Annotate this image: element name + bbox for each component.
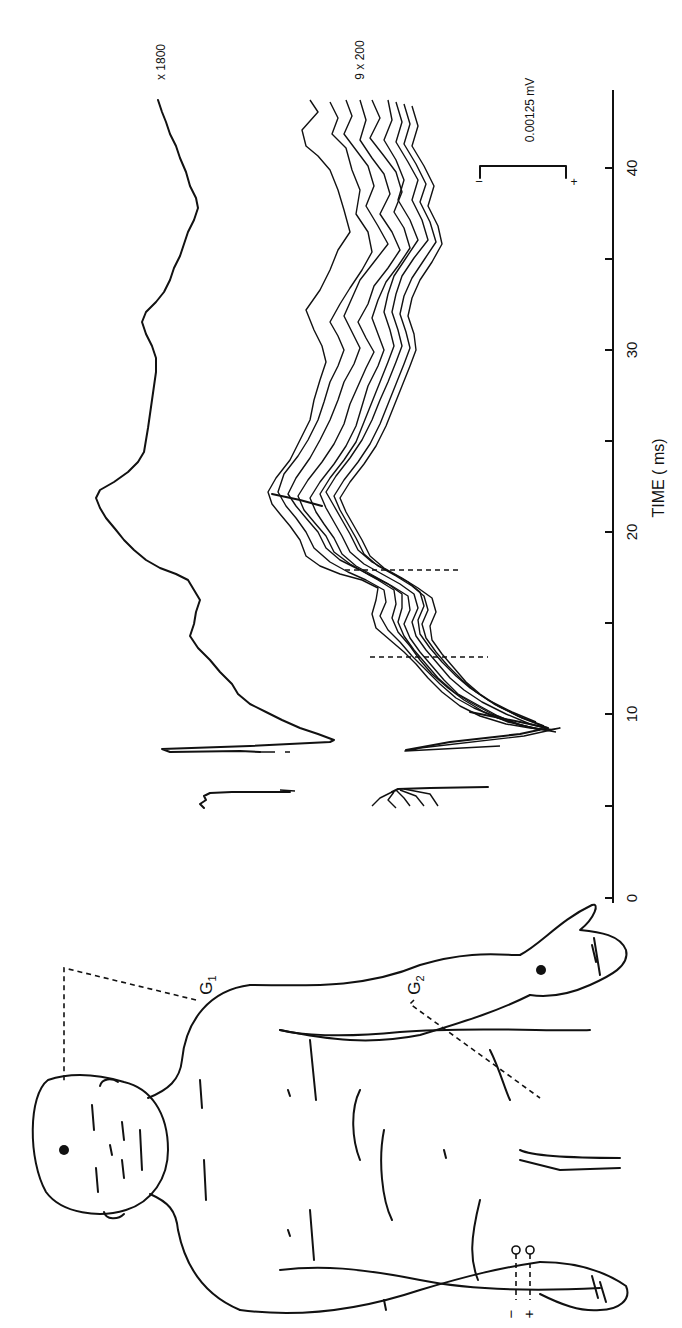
g2-leader-line xyxy=(410,1000,540,1098)
stim-plus-label: + xyxy=(520,1309,537,1318)
scale-bar-label: 0.00125 mV xyxy=(523,78,537,143)
tick-label-10: 10 xyxy=(623,706,640,723)
g1-label: G1 xyxy=(197,975,218,994)
scale-bar-minus: − xyxy=(475,174,483,189)
lower-gain-label: 9 x 200 xyxy=(353,40,367,80)
body-illustration xyxy=(33,905,628,1313)
g2-label: G2 xyxy=(405,975,426,994)
stim-electrode-plus xyxy=(526,1246,534,1254)
tick-label-0: 0 xyxy=(623,894,640,902)
head-outline xyxy=(33,1075,168,1214)
tick-label-40: 40 xyxy=(623,160,640,177)
stim-electrode-minus xyxy=(512,1246,520,1254)
g1-leader-line xyxy=(64,968,196,1081)
upper-gain-label: x 1800 xyxy=(154,44,168,80)
scale-bar-plus: + xyxy=(570,175,577,189)
g1-electrode-dot xyxy=(59,1145,69,1155)
scale-bar: − + 0.00125 mV xyxy=(475,78,577,189)
tick-label-30: 30 xyxy=(623,342,640,359)
lower-traces-g2 xyxy=(268,100,560,808)
time-axis xyxy=(605,90,613,903)
figure-canvas: 0 10 20 30 40 TIME ( ms) x 1800 9 x 200 … xyxy=(0,0,682,1328)
g2-electrode-dot xyxy=(536,965,546,975)
upper-trace-g1 xyxy=(96,100,334,808)
axis-title: TIME ( ms) xyxy=(650,438,667,517)
tick-label-20: 20 xyxy=(623,524,640,541)
time-axis-tick-labels: 0 10 20 30 40 xyxy=(623,160,640,903)
stim-minus-label: − xyxy=(502,1309,519,1318)
